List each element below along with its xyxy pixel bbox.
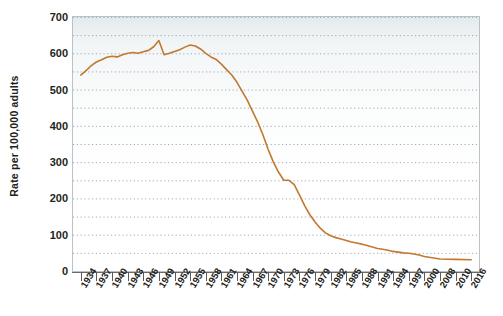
y-axis-title: Rate per 100,000 adults xyxy=(0,0,28,272)
y-axis-title-text: Rate per 100,000 adults xyxy=(8,75,20,196)
y-tick-label-600: 600 xyxy=(28,47,68,59)
y-tick-label-400: 400 xyxy=(28,120,68,132)
y-tick-label-700: 700 xyxy=(28,11,68,23)
y-tick-label-200: 200 xyxy=(28,192,68,204)
y-tick-label-500: 500 xyxy=(28,84,68,96)
chart-figure: Rate per 100,000 adults 0100200300400500… xyxy=(0,0,503,316)
y-tick-label-100: 100 xyxy=(28,229,68,241)
plot-area xyxy=(72,16,480,272)
y-axis-tick-labels: 0100200300400500600700 xyxy=(26,0,68,316)
data-series-line xyxy=(81,41,471,260)
line-chart-svg xyxy=(73,17,479,271)
y-tick-label-300: 300 xyxy=(28,156,68,168)
gridlines xyxy=(73,18,479,272)
x-axis-tick-labels: 1934193719401943194619491952195519581961… xyxy=(0,272,503,316)
